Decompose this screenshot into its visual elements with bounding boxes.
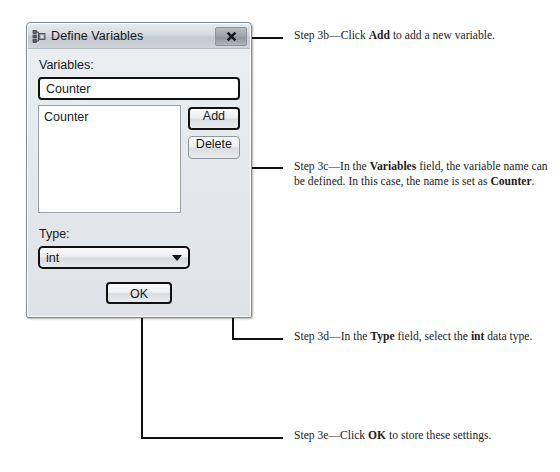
type-label: Type: (39, 227, 240, 241)
annotation-step-3e: Step 3e—Click OK to store these settings… (294, 429, 558, 444)
chevron-down-icon (172, 255, 182, 261)
variables-label: Variables: (39, 58, 240, 72)
dialog-footer: OK (38, 282, 240, 304)
variables-input[interactable] (38, 77, 240, 100)
variables-tree-icon (32, 29, 47, 44)
leader-line-step-3d-horizontal-lower (232, 338, 283, 340)
annotation-step-3d: Step 3d—In the Type field, select the in… (294, 330, 558, 345)
dialog-titlebar[interactable]: Define Variables (28, 24, 250, 49)
variables-listbox[interactable]: Counter (38, 105, 181, 213)
close-icon[interactable] (215, 27, 247, 46)
ok-button[interactable]: OK (106, 282, 172, 304)
type-dropdown[interactable]: int (38, 246, 190, 269)
annotation-step-3b: Step 3b—Click Add to add a new variable. (294, 29, 558, 44)
variables-list-row: Counter Add Delete (38, 105, 240, 213)
type-selected-value: int (46, 251, 172, 265)
annotation-step-3c: Step 3c—In the Variables field, the vari… (294, 160, 558, 189)
dialog-client-area: Variables: Counter Add Delete Type: int … (28, 48, 250, 316)
leader-line-step-3e-horizontal (141, 437, 283, 439)
dialog-title: Define Variables (51, 29, 215, 43)
list-item[interactable]: Counter (39, 108, 180, 126)
define-variables-dialog: Define Variables Variables: Counter Add … (26, 22, 252, 318)
list-action-buttons: Add Delete (188, 105, 240, 159)
delete-button[interactable]: Delete (188, 136, 240, 159)
leader-line-step-3e-vertical (141, 304, 143, 439)
add-button[interactable]: Add (188, 107, 240, 130)
